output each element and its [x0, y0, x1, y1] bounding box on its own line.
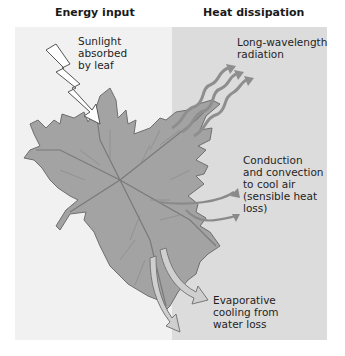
conduction-label: Conduction and convection to cool air (s…: [243, 154, 324, 214]
radiation-label: Long-wavelength radiation: [237, 36, 327, 60]
evaporative-label: Evaporative cooling from water loss: [213, 294, 279, 330]
radiation-arrowheads-icon: [226, 64, 254, 86]
leaf-icon: [24, 88, 220, 312]
sunlight-label: Sunlight absorbed by leaf: [78, 35, 127, 71]
